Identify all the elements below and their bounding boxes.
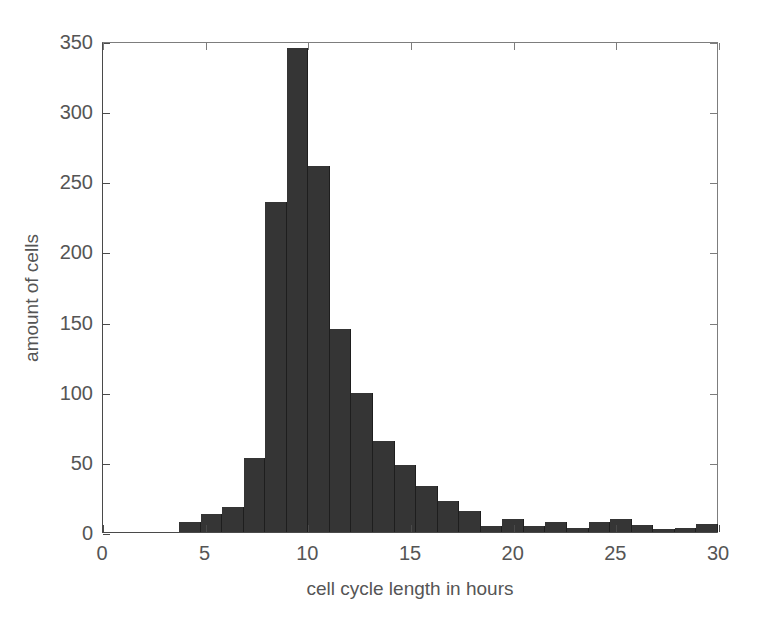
histogram-bar	[524, 526, 546, 532]
y-axis-tick	[103, 394, 110, 395]
y-axis-tick-label: 250	[60, 171, 102, 194]
histogram-bar	[459, 511, 481, 532]
histogram-bar	[287, 48, 309, 532]
y-axis-tick-mirror	[710, 43, 717, 44]
y-axis-tick-mirror	[710, 113, 717, 114]
y-axis-tick-label: 350	[60, 31, 102, 54]
y-axis-tick-label: 50	[71, 451, 102, 474]
x-axis-tick	[514, 525, 515, 532]
histogram-bar	[416, 486, 438, 532]
histogram-bar	[675, 528, 697, 532]
x-axis-tick-label: 0	[96, 542, 107, 565]
x-axis-tick-label: 30	[707, 542, 729, 565]
y-axis-tick-label: 100	[60, 381, 102, 404]
bar-series	[103, 43, 717, 532]
histogram-bar	[179, 522, 201, 532]
y-axis-tick	[103, 534, 110, 535]
y-axis-tick-label: 150	[60, 311, 102, 334]
y-axis-tick-mirror	[710, 183, 717, 184]
x-axis-tick-mirror	[719, 43, 720, 50]
y-axis-tick	[103, 43, 110, 44]
x-axis-tick-mirror	[616, 43, 617, 50]
x-axis-tick-labels: 051015202530	[102, 542, 718, 572]
y-axis-tick-mirror	[710, 464, 717, 465]
y-axis-tick	[103, 183, 110, 184]
x-axis-title: cell cycle length in hours	[102, 578, 718, 600]
histogram-bar	[567, 528, 589, 532]
histogram-bar	[201, 514, 223, 532]
histogram-bar	[373, 441, 395, 532]
x-axis-tick-label: 20	[502, 542, 524, 565]
histogram-bar	[653, 529, 675, 532]
histogram-bar	[351, 393, 373, 532]
y-axis-tick-label: 200	[60, 241, 102, 264]
x-axis-tick	[206, 525, 207, 532]
histogram-bar	[244, 458, 266, 532]
x-axis-tick-label: 5	[199, 542, 210, 565]
y-axis-tick-mirror	[710, 324, 717, 325]
x-axis-tick-mirror	[103, 43, 104, 50]
histogram-bar	[330, 329, 352, 532]
x-axis-tick	[411, 525, 412, 532]
histogram-bar	[222, 507, 244, 532]
histogram-bar	[481, 526, 503, 532]
y-axis-tick-label: 300	[60, 101, 102, 124]
x-axis-tick	[616, 525, 617, 532]
histogram-figure: 050100150200250300350 051015202530 cell …	[0, 0, 759, 621]
y-axis-tick-mirror	[710, 253, 717, 254]
x-axis-tick-label: 10	[296, 542, 318, 565]
y-axis-tick	[103, 113, 110, 114]
x-axis-tick-mirror	[206, 43, 207, 50]
histogram-bar	[438, 501, 460, 532]
histogram-bar	[696, 524, 718, 532]
y-axis-tick-mirror	[710, 394, 717, 395]
x-axis-tick-mirror	[308, 43, 309, 50]
histogram-bar	[610, 519, 632, 532]
x-axis-tick	[719, 525, 720, 532]
y-axis-tick	[103, 324, 110, 325]
y-axis-title: amount of cells	[21, 188, 43, 408]
x-axis-tick-label: 25	[604, 542, 626, 565]
histogram-bar	[545, 522, 567, 532]
histogram-bar	[308, 166, 330, 532]
x-axis-tick-mirror	[514, 43, 515, 50]
x-axis-tick-mirror	[411, 43, 412, 50]
y-axis-tick	[103, 253, 110, 254]
histogram-bar	[395, 465, 417, 532]
x-axis-tick	[103, 525, 104, 532]
y-axis-tick	[103, 464, 110, 465]
histogram-bar	[589, 522, 611, 532]
plot-area	[102, 42, 718, 533]
histogram-bar	[265, 202, 287, 532]
histogram-bar	[632, 525, 654, 532]
x-axis-tick	[308, 525, 309, 532]
y-axis-tick-labels: 050100150200250300350	[0, 42, 102, 533]
x-axis-tick-label: 15	[399, 542, 421, 565]
